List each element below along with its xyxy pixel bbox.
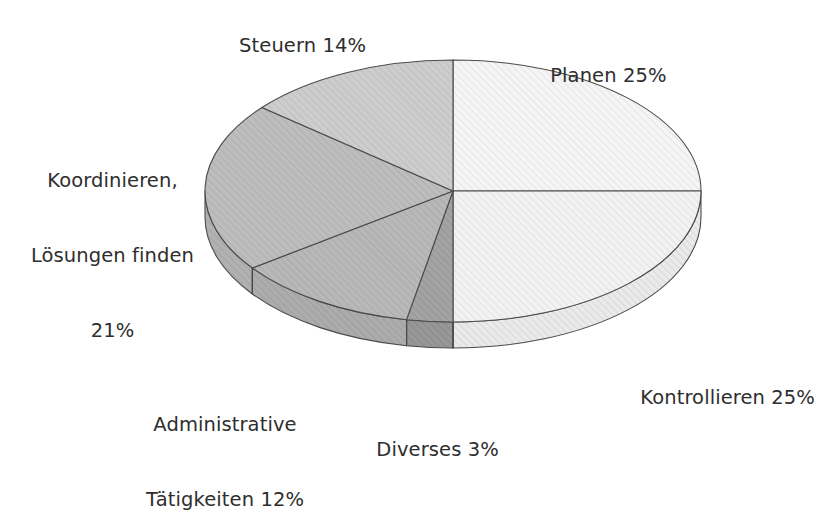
slice-label-koordinieren-line3: 21%	[5, 318, 220, 343]
slice-label-diverses: Diverses 3%	[300, 412, 550, 487]
slice-label-kontrollieren-text: Kontrollieren 25%	[640, 386, 815, 409]
pie-slice-kontrollieren	[453, 191, 701, 322]
slice-label-koordinieren-line2: Lösungen finden	[5, 243, 220, 268]
slice-label-diverses-text: Diverses 3%	[376, 438, 499, 461]
slice-label-koordinieren: Koordinieren, Lösungen finden 21%	[5, 118, 220, 393]
slice-label-steuern: Steuern 14%	[175, 8, 405, 83]
slice-label-administrative-line2: Tätigkeiten 12%	[95, 487, 355, 512]
slice-label-planen: Planen 25%	[525, 38, 755, 113]
slice-label-steuern-text: Steuern 14%	[239, 34, 366, 57]
pie-slice-side-diverses	[407, 320, 453, 348]
slice-label-koordinieren-line1: Koordinieren,	[5, 168, 220, 193]
slice-label-kontrollieren: Kontrollieren 25%	[570, 360, 815, 435]
slice-label-planen-text: Planen 25%	[550, 64, 666, 87]
